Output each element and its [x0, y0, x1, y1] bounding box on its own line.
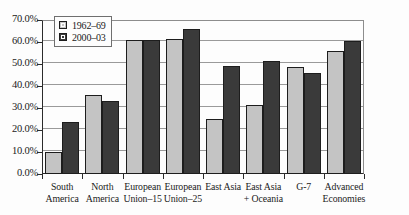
bar-group — [163, 20, 203, 174]
x-axis-tick-mark — [123, 174, 124, 179]
x-axis-tick-mark — [203, 174, 204, 179]
bar-group — [123, 20, 163, 174]
y-axis-tick-label: 60.0% — [0, 35, 38, 46]
y-axis-tick-label: 70.0% — [0, 13, 38, 24]
x-axis-tick-mark — [243, 174, 244, 179]
bar — [166, 39, 183, 174]
bar-group — [203, 20, 243, 174]
legend-swatch-icon — [59, 21, 67, 29]
bar — [143, 40, 160, 174]
bar-group — [284, 20, 324, 174]
x-axis-category-line: Economies — [316, 193, 372, 205]
bar — [246, 105, 263, 174]
legend-swatch-icon — [59, 33, 67, 41]
chart-screenshot: 70.0%60.0%50.0%40.0%30.0%20.0%10.0%0.0% … — [0, 0, 409, 215]
bar — [126, 40, 143, 174]
y-axis-tick-label: 20.0% — [0, 123, 38, 134]
y-axis-tick-label: 30.0% — [0, 101, 38, 112]
y-axis-tick-label: 50.0% — [0, 57, 38, 68]
y-axis-tick-label: 0.0% — [0, 167, 38, 178]
legend-item: 1962–69 — [59, 19, 106, 31]
bar — [223, 66, 240, 174]
bar — [263, 61, 280, 174]
y-axis-tick-label: 10.0% — [0, 145, 38, 156]
x-axis-tick-mark — [284, 174, 285, 179]
bar — [62, 122, 79, 174]
x-axis-category-line: + Oceania — [235, 193, 291, 205]
bar — [327, 51, 344, 174]
bar-group — [243, 20, 283, 174]
x-axis-tick-mark — [324, 174, 325, 179]
x-axis-tick-mark — [364, 174, 365, 179]
bar — [206, 119, 223, 174]
bar — [85, 95, 102, 174]
legend-label: 2000–03 — [72, 32, 106, 43]
x-axis-category-line: Union–25 — [155, 193, 211, 205]
x-axis-category-label: AdvancedEconomies — [316, 181, 372, 204]
bar — [102, 101, 119, 174]
x-axis-category-line: Advanced — [316, 181, 372, 193]
legend-item: 2000–03 — [59, 31, 106, 43]
bar — [344, 41, 361, 174]
legend-label: 1962–69 — [72, 20, 106, 31]
chart-legend: 1962–692000–03 — [54, 16, 112, 47]
x-axis-tick-mark — [82, 174, 83, 179]
bar — [287, 67, 304, 174]
x-axis-tick-mark — [42, 174, 43, 179]
bar — [183, 29, 200, 174]
x-axis-tick-mark — [163, 174, 164, 179]
bar — [45, 152, 62, 174]
bar — [304, 73, 321, 174]
bar-group — [324, 20, 364, 174]
y-axis-tick-label: 40.0% — [0, 79, 38, 90]
